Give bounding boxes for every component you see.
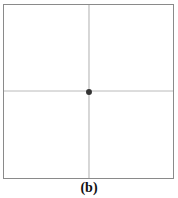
fourier-spectrum-image: [4, 5, 173, 178]
spectrum-image-frame: [3, 4, 174, 179]
dc-component: [86, 89, 92, 95]
figure-label: (b): [0, 180, 178, 196]
